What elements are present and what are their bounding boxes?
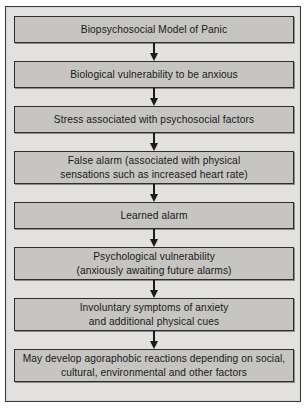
flow-arrow-down-icon (147, 133, 161, 151)
flow-node-line: Psychological vulnerability (76, 250, 231, 264)
arrow-head (150, 194, 158, 202)
flow-node-stress-psychosocial-factors: Stress associated with psychosocial fact… (14, 106, 294, 133)
arrow-head (150, 341, 158, 349)
flow-node-biological-vulnerability: Biological vulnerability to be anxious (14, 61, 294, 88)
flowchart: Biopsychosocial Model of PanicBiological… (14, 16, 294, 382)
flow-arrow-down-icon (147, 88, 161, 106)
flow-node-biopsychosocial-model-of-panic: Biopsychosocial Model of Panic (14, 16, 294, 43)
flow-node-involuntary-symptoms: Involuntary symptoms of anxietyand addit… (14, 298, 294, 331)
flow-node-line: and additional physical cues (80, 315, 229, 329)
flow-node-label: Involuntary symptoms of anxietyand addit… (80, 301, 229, 328)
arrow-head (150, 239, 158, 247)
flow-node-line: Learned alarm (120, 209, 187, 223)
flow-node-label: Learned alarm (120, 209, 187, 223)
flow-node-agoraphobic-reactions: May develop agoraphobic reactions depend… (14, 349, 294, 382)
flow-node-line: (anxiously awaiting future alarms) (76, 264, 231, 278)
arrow-head (150, 98, 158, 106)
flow-arrow-down-icon (147, 280, 161, 298)
flow-node-line: Biological vulnerability to be anxious (70, 68, 238, 82)
flow-arrow-down-icon (147, 184, 161, 202)
flow-node-line: Stress associated with psychosocial fact… (54, 113, 254, 127)
flow-node-psychological-vulnerability: Psychological vulnerability(anxiously aw… (14, 247, 294, 280)
flow-node-label: Biological vulnerability to be anxious (70, 68, 238, 82)
flow-node-line: sensations such as increased heart rate) (60, 168, 248, 182)
flow-node-line: May develop agoraphobic reactions depend… (23, 352, 286, 366)
flow-node-label: Psychological vulnerability(anxiously aw… (76, 250, 231, 277)
diagram-frame: Biopsychosocial Model of PanicBiological… (5, 6, 301, 402)
flow-node-line: False alarm (associated with physical (60, 154, 248, 168)
flow-node-learned-alarm: Learned alarm (14, 202, 294, 229)
flow-node-line: Biopsychosocial Model of Panic (81, 23, 227, 37)
flow-arrow-down-icon (147, 229, 161, 247)
flow-node-line: cultural, environmental and other factor… (23, 366, 286, 380)
flow-node-label: Stress associated with psychosocial fact… (54, 113, 254, 127)
flow-arrow-down-icon (147, 331, 161, 349)
arrow-head (150, 143, 158, 151)
flow-node-false-alarm: False alarm (associated with physicalsen… (14, 151, 294, 184)
flow-arrow-down-icon (147, 43, 161, 61)
arrow-head (150, 290, 158, 298)
flow-node-label: Biopsychosocial Model of Panic (81, 23, 227, 37)
arrow-head (150, 53, 158, 61)
flow-node-label: May develop agoraphobic reactions depend… (23, 352, 286, 379)
flow-node-label: False alarm (associated with physicalsen… (60, 154, 248, 181)
flow-node-line: Involuntary symptoms of anxiety (80, 301, 229, 315)
